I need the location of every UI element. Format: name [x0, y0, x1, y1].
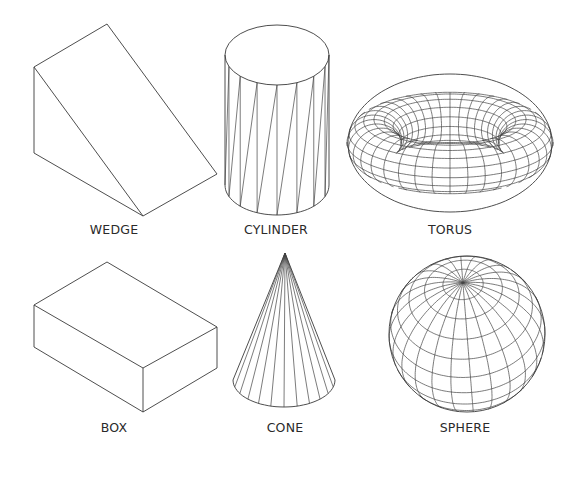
box-label: BOX [101, 421, 128, 435]
cone-shape [233, 253, 335, 407]
sphere-shape [389, 256, 545, 412]
box-shape [34, 262, 217, 412]
sphere-label: SPHERE [440, 421, 491, 435]
wedge-shape [34, 24, 217, 216]
primitive-shapes-figure: WEDGE CYLINDER TORUS BOX CONE SPHERE [0, 0, 583, 482]
torus-shape [347, 74, 553, 212]
cylinder-shape [225, 25, 329, 215]
cone-label: CONE [267, 421, 304, 435]
cylinder-label: CYLINDER [244, 223, 308, 237]
shapes-drawing [0, 0, 583, 482]
torus-label: TORUS [428, 223, 472, 237]
wedge-label: WEDGE [90, 223, 138, 237]
